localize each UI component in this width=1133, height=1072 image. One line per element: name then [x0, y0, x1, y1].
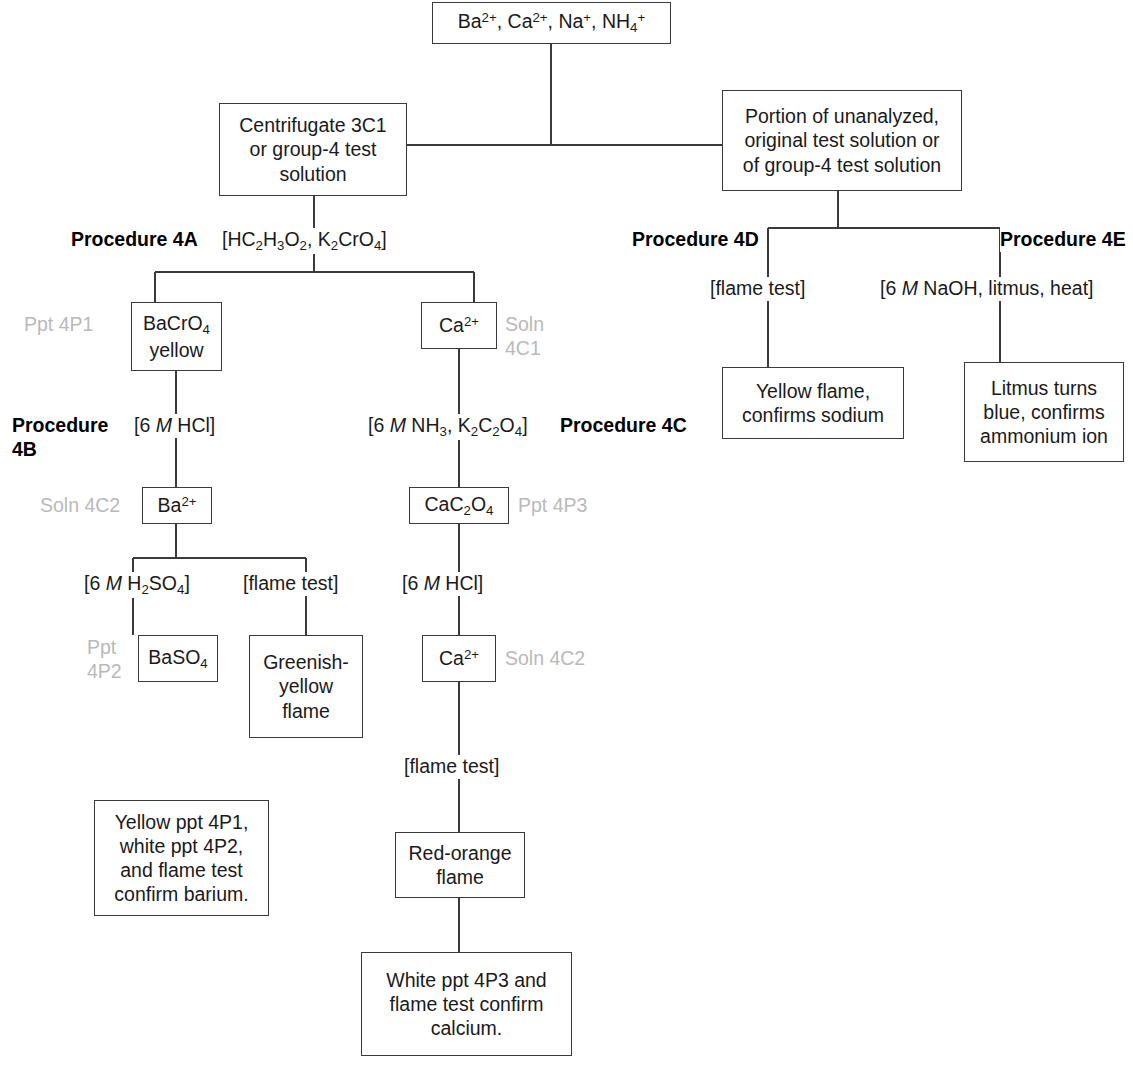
fraction-ppt-4p3: Ppt 4P3: [518, 494, 587, 518]
node-greenish-yellow-flame: Greenish-yellowflame: [249, 635, 363, 738]
procedure-4d-label: Procedure 4D: [632, 228, 759, 252]
node-baso4-label: BaSO4: [148, 645, 207, 672]
fraction-soln-4c2-left: Soln 4C2: [40, 494, 120, 518]
node-barium-confirmation: Yellow ppt 4P1,white ppt 4P2,and flame t…: [94, 800, 269, 916]
reagent-flame-test-sodium: [flame test]: [710, 277, 805, 301]
reagent-4b: [6 M HCl]: [134, 414, 215, 438]
node-red-orange-flame: Red-orangeflame: [395, 832, 525, 898]
procedure-4c-label: Procedure 4C: [560, 414, 687, 438]
node-ca-4c1: Ca2+: [421, 302, 497, 349]
node-portion-label: Portion of unanalyzed,original test solu…: [743, 104, 941, 177]
node-baso4: BaSO4: [138, 635, 218, 682]
reagent-4a: [HC2H3O2, K2CrO4]: [222, 228, 387, 254]
node-red-orange-flame-label: Red-orangeflame: [409, 841, 512, 889]
reagent-4c: [6 M NH3, K2C2O4]: [368, 414, 528, 440]
node-ca-soln-4c2-label: Ca2+: [439, 646, 479, 670]
procedure-4a-label: Procedure 4A: [71, 228, 198, 252]
procedure-4e-label: Procedure 4E: [1000, 228, 1126, 252]
node-cac2o4: CaC2O4: [409, 487, 509, 524]
fraction-soln-4c2-mid: Soln 4C2: [505, 647, 585, 671]
node-ba-4c2: Ba2+: [142, 487, 212, 524]
fraction-soln-4c1: Soln 4C1: [505, 313, 544, 361]
node-centrifugate: Centrifugate 3C1or group-4 testsolution: [219, 103, 407, 196]
node-calcium-confirmation: White ppt 4P3 andflame test confirmcalci…: [361, 952, 572, 1056]
fraction-ppt-4p1: Ppt 4P1: [24, 313, 93, 337]
node-bacro4: BaCrO4yellow: [131, 302, 222, 371]
node-centrifugate-label: Centrifugate 3C1or group-4 testsolution: [239, 113, 386, 186]
node-yellow-flame-sodium-label: Yellow flame,confirms sodium: [742, 379, 884, 427]
node-portion: Portion of unanalyzed,original test solu…: [722, 90, 962, 191]
node-cac2o4-label: CaC2O4: [425, 492, 494, 519]
node-ba-4c2-label: Ba2+: [158, 493, 197, 517]
node-ca-4c1-label: Ca2+: [439, 313, 479, 337]
node-top-ions-label: Ba2+, Ca2+, Na+, NH4+: [458, 9, 645, 36]
node-calcium-confirmation-label: White ppt 4P3 andflame test confirmcalci…: [386, 968, 546, 1041]
flowchart-canvas: Ba2+, Ca2+, Na+, NH4+ Centrifugate 3C1or…: [0, 0, 1133, 1072]
node-litmus-ammonium: Litmus turnsblue, confirmsammonium ion: [964, 362, 1124, 462]
reagent-flame-test-barium: [flame test]: [243, 572, 338, 596]
reagent-h2so4: [6 M H2SO4]: [84, 572, 190, 598]
fraction-ppt-4p2: Ppt 4P2: [87, 636, 122, 684]
node-bacro4-label: BaCrO4yellow: [143, 311, 210, 362]
reagent-naoh-litmus: [6 M NaOH, litmus, heat]: [880, 277, 1094, 301]
node-barium-confirmation-label: Yellow ppt 4P1,white ppt 4P2,and flame t…: [114, 810, 248, 907]
node-top-ions: Ba2+, Ca2+, Na+, NH4+: [432, 2, 671, 44]
node-ca-soln-4c2: Ca2+: [422, 635, 496, 682]
procedure-4b-label: Procedure4B: [12, 414, 108, 462]
node-litmus-ammonium-label: Litmus turnsblue, confirmsammonium ion: [980, 376, 1108, 449]
node-yellow-flame-sodium: Yellow flame,confirms sodium: [722, 367, 904, 439]
node-greenish-yellow-flame-label: Greenish-yellowflame: [263, 650, 349, 723]
reagent-hcl-calcium: [6 M HCl]: [402, 572, 483, 596]
reagent-flame-test-calcium: [flame test]: [404, 755, 499, 779]
